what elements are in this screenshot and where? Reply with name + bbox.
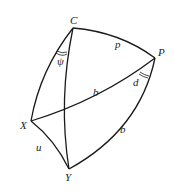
label-vertex-c: C: [70, 14, 78, 26]
arc-c-y: [64, 28, 73, 169]
arc-p-y: [69, 58, 155, 169]
arc-c-p: [73, 28, 155, 58]
label-vertex-x: X: [19, 119, 28, 131]
angle-mark-psi-1: [57, 51, 67, 53]
label-vertex-p: P: [157, 46, 165, 58]
label-angle-psi: ψ: [57, 55, 64, 67]
label-angle-d: d: [133, 76, 139, 88]
arc-c-x: [31, 28, 73, 121]
label-arc-b-lower: b: [120, 123, 126, 135]
label-arc-p: p: [114, 38, 121, 50]
spherical-triangle-diagram: C P X Y p b b u ψ d: [0, 0, 174, 195]
label-arc-u: u: [36, 141, 42, 153]
angle-mark-d-2: [139, 74, 148, 78]
label-vertex-y: Y: [65, 171, 73, 183]
label-arc-b-upper: b: [93, 86, 99, 98]
